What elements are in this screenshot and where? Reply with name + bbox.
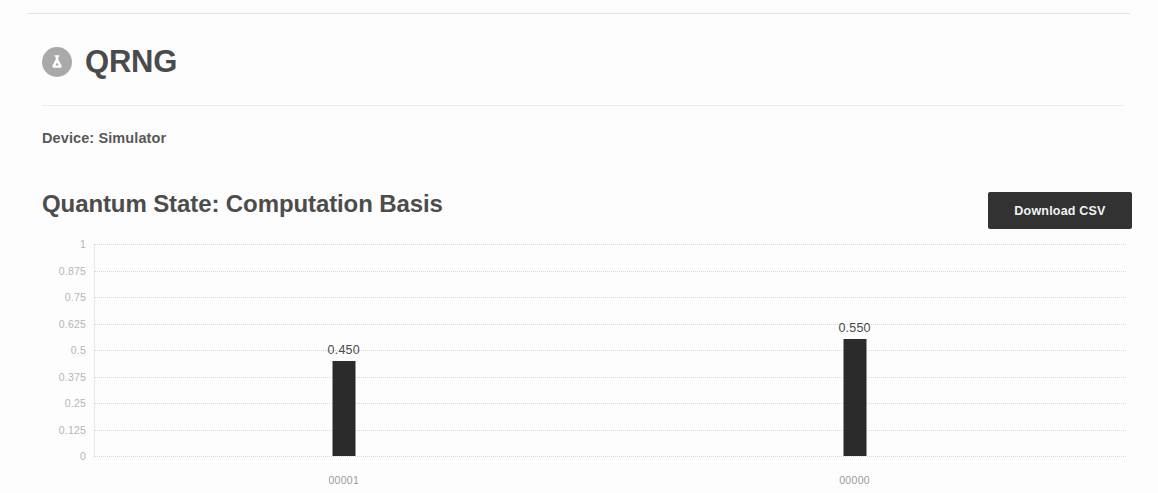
- y-axis-tick-label: 1: [28, 238, 86, 250]
- app-header: QRNG: [42, 46, 177, 77]
- plot-area: 0.450000010.55000000: [94, 244, 1126, 456]
- gridline: [94, 244, 1126, 245]
- y-axis-tick-label: 0.375: [28, 371, 86, 383]
- gridline: [94, 324, 1126, 325]
- header-divider: [42, 105, 1124, 106]
- gridline: [94, 377, 1126, 378]
- y-axis-tick-labels: 10.8750.750.6250.50.3750.250.1250: [22, 244, 86, 456]
- y-axis-tick-label: 0: [28, 450, 86, 462]
- top-divider: [28, 13, 1130, 14]
- x-axis-tick-label: 00001: [328, 474, 359, 486]
- y-axis-tick-label: 0.125: [28, 424, 86, 436]
- page-title: Quantum State: Computation Basis: [42, 192, 443, 216]
- chart-inner: 10.8750.750.6250.50.3750.250.1250 0.4500…: [0, 232, 1158, 487]
- download-csv-button[interactable]: Download CSV: [988, 192, 1132, 229]
- app-title: QRNG: [85, 46, 177, 77]
- gridline: [94, 403, 1126, 404]
- bar[interactable]: [332, 361, 355, 456]
- quantum-state-bar-chart: 10.8750.750.6250.50.3750.250.1250 0.4500…: [0, 232, 1158, 487]
- bar[interactable]: [843, 339, 866, 456]
- gridline: [94, 297, 1126, 298]
- y-axis-tick-label: 0.25: [28, 397, 86, 409]
- gridline: [94, 271, 1126, 272]
- flask-atom-icon: [42, 47, 72, 77]
- bar-value-label: 0.450: [328, 343, 360, 357]
- bar-value-label: 0.550: [838, 321, 870, 335]
- x-axis-tick-label: 00000: [839, 474, 870, 486]
- y-axis-tick-label: 0.75: [28, 291, 86, 303]
- device-status-label: Device: Simulator: [42, 130, 166, 146]
- y-axis-tick-label: 0.625: [28, 318, 86, 330]
- y-axis-tick-label: 0.875: [28, 265, 86, 277]
- gridline: [94, 456, 1126, 457]
- gridline: [94, 350, 1126, 351]
- y-axis-tick-label: 0.5: [28, 344, 86, 356]
- page-root: QRNG Device: Simulator Quantum State: Co…: [0, 0, 1158, 493]
- gridline: [94, 430, 1126, 431]
